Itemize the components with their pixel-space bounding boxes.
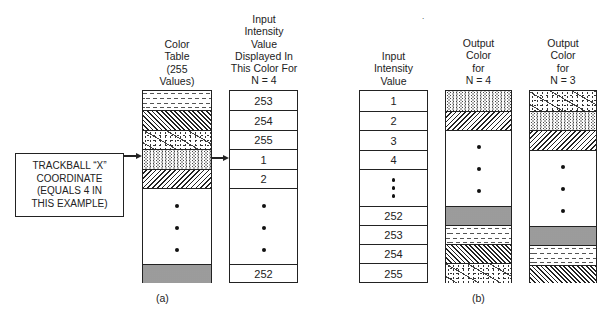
- ellipsis-dot: [561, 209, 565, 213]
- color-swatch-stipple: [530, 111, 596, 130]
- ellipsis-dot: [392, 186, 396, 190]
- output-n3-column: [529, 90, 597, 283]
- input-cell: 252: [230, 264, 297, 283]
- input-cell: 252: [360, 206, 427, 225]
- color-swatch-dense-grey: [143, 264, 211, 283]
- input-cell: 255: [230, 130, 297, 149]
- input-intensity-header: Input Intensity Value: [359, 50, 428, 87]
- input-cell: 253: [230, 91, 297, 110]
- panel-b-label: (b): [472, 292, 485, 304]
- input-cell: 3: [360, 130, 427, 150]
- panel-a-label: (a): [156, 292, 169, 304]
- input-displayed-header: Input Intensity Value Displayed In This …: [222, 13, 306, 87]
- input-cell: 2: [230, 169, 297, 188]
- color-swatch-forward-hatch: [446, 111, 511, 130]
- color-swatch-confetti: [530, 91, 596, 111]
- trackball-box: TRACKBALL “X” COORDINATE (EQUALS 4 IN TH…: [15, 153, 124, 217]
- ellipsis-dot: [477, 189, 481, 193]
- color-swatch-confetti: [446, 263, 511, 283]
- ellipsis-dot: [262, 248, 266, 252]
- arrow-head-icon: [136, 153, 142, 159]
- stray-mark: .: [422, 12, 424, 21]
- input-cell: 1: [360, 91, 427, 111]
- ellipsis-dot: [175, 226, 179, 230]
- input-cell: 4: [360, 150, 427, 169]
- ellipsis-dot: [175, 248, 179, 252]
- color-swatch-forward-hatch: [143, 169, 211, 188]
- color-swatch-back-hatch: [446, 244, 511, 263]
- color-swatch-back-hatch: [530, 265, 596, 283]
- ellipsis-dot: [262, 226, 266, 230]
- output-n4-column: [445, 90, 512, 283]
- output-n3-header: Output Color for N = 3: [529, 37, 597, 86]
- ellipsis-dot: [392, 194, 396, 198]
- input-cell: 254: [360, 244, 427, 263]
- input-cell: 2: [360, 111, 427, 130]
- color-table-column: [142, 90, 212, 283]
- ellipsis-dot: [392, 178, 396, 182]
- output-n4-header: Output Color for N = 4: [445, 37, 512, 86]
- ellipsis-dot: [477, 167, 481, 171]
- color-swatch-dashed: [143, 91, 211, 110]
- ellipsis-dot: [262, 204, 266, 208]
- color-swatch-confetti: [143, 130, 211, 149]
- input-value-column-b: 1 2 3 4 252 253 254 255: [359, 90, 428, 283]
- color-swatch-dashed: [530, 245, 596, 265]
- color-swatch-stipple: [143, 149, 211, 169]
- arrow-head-icon: [223, 155, 229, 161]
- color-swatch-dashed: [446, 225, 511, 244]
- color-swatch-back-hatch: [143, 110, 211, 130]
- input-cell-ellipsis: [230, 188, 297, 264]
- input-cell: 1: [230, 149, 297, 169]
- ellipsis-dot: [175, 204, 179, 208]
- input-cell: 254: [230, 110, 297, 130]
- ellipsis-dot: [561, 187, 565, 191]
- input-cell: 253: [360, 225, 427, 244]
- input-cell: 255: [360, 263, 427, 283]
- color-swatch-dense-grey: [446, 206, 511, 225]
- color-swatch-stipple: [446, 91, 511, 111]
- ellipsis-dot: [561, 165, 565, 169]
- color-swatch-forward-hatch: [530, 130, 596, 150]
- color-swatch-ellipsis: [530, 150, 596, 226]
- color-swatch-dense-grey: [530, 226, 596, 245]
- color-swatch-ellipsis: [446, 130, 511, 206]
- input-cell-ellipsis: [360, 169, 427, 206]
- color-swatch-ellipsis: [143, 188, 211, 264]
- input-value-column-a: 253 254 255 1 2 252: [229, 90, 298, 283]
- ellipsis-dot: [477, 145, 481, 149]
- color-table-header: Color Table (255 Values): [142, 38, 212, 87]
